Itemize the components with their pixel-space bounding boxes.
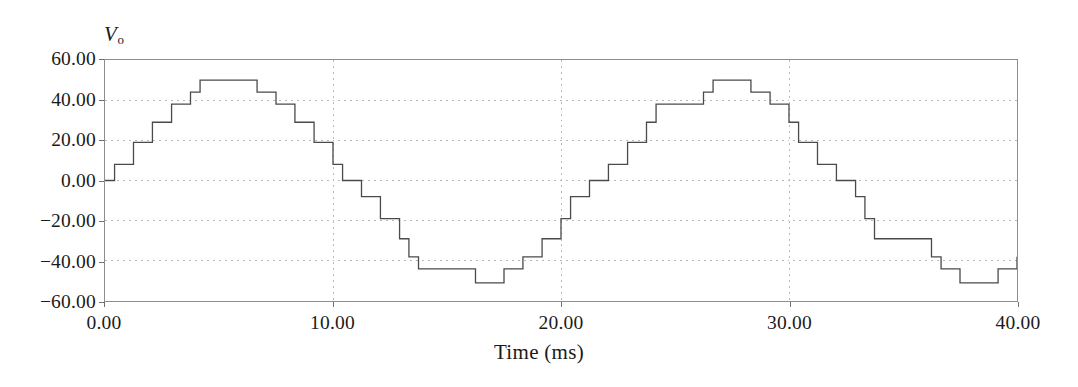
x-axis-tick-labels: 0.0010.0020.0030.0040.00 [0,305,1078,335]
y-tick-mark [99,140,104,141]
y-axis-title: Vo [104,22,124,47]
x-tick-label: 10.00 [310,313,355,333]
y-tick-label: 60.00 [10,49,96,69]
x-tick-label: 40.00 [996,313,1041,333]
x-axis-title: Time (ms) [0,340,1078,365]
x-tick-mark [104,302,105,307]
y-tick-mark [99,100,104,101]
x-tick-label: 20.00 [539,313,584,333]
x-tick-label: 0.00 [87,313,122,333]
y-axis-subscript: o [118,32,125,47]
y-tick-mark [99,262,104,263]
y-tick-label: −20.00 [10,211,96,231]
y-tick-mark [99,181,104,182]
y-tick-label: 20.00 [10,130,96,150]
data-layer [105,60,1017,301]
chart-figure: Vo 60.0040.0020.000.00−20.00−40.00−60.00… [0,0,1078,387]
x-tick-mark [790,302,791,307]
plot-area [104,59,1018,302]
y-axis-symbol: V [104,22,117,46]
y-tick-mark [99,59,104,60]
x-tick-mark [333,302,334,307]
y-tick-label: −40.00 [10,252,96,272]
y-tick-mark [99,221,104,222]
x-tick-mark [1018,302,1019,307]
x-tick-label: 30.00 [767,313,812,333]
x-tick-mark [561,302,562,307]
y-tick-label: 40.00 [10,90,96,110]
y-tick-label: 0.00 [10,171,96,191]
